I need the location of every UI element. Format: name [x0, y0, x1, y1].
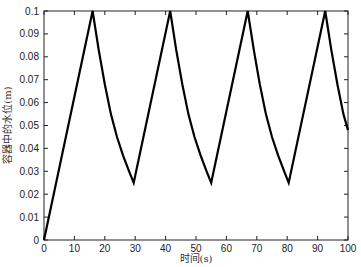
x-axis-label: 时间(s) [180, 252, 213, 264]
y-tick-label: 0 [33, 235, 39, 246]
y-tick-label: 0.04 [20, 143, 40, 154]
series-line [44, 11, 348, 240]
x-tick-label: 20 [99, 243, 111, 254]
y-tick-label: 0.07 [20, 74, 40, 85]
x-tick-label: 70 [251, 243, 263, 254]
plot-frame [44, 11, 348, 240]
x-tick-label: 90 [312, 243, 324, 254]
line-chart: 010203040506070809010000.010.020.030.040… [0, 0, 361, 267]
y-tick-label: 0.08 [20, 51, 40, 62]
y-tick-label: 0.01 [20, 212, 40, 223]
x-tick-label: 30 [130, 243, 142, 254]
y-tick-label: 0.06 [20, 97, 40, 108]
x-tick-label: 10 [69, 243, 81, 254]
plot-axes: 010203040506070809010000.010.020.030.040… [20, 6, 357, 255]
x-tick-label: 80 [282, 243, 294, 254]
y-tick-label: 0.03 [20, 166, 40, 177]
y-tick-label: 0.1 [25, 6, 39, 17]
x-tick-label: 100 [340, 243, 357, 254]
x-tick-label: 40 [160, 243, 172, 254]
y-tick-label: 0.09 [20, 28, 40, 39]
y-axis-label: 容器中的水位(m) [1, 86, 13, 163]
x-tick-label: 60 [221, 243, 233, 254]
data-series [44, 11, 348, 240]
x-tick-label: 0 [41, 243, 47, 254]
y-tick-label: 0.05 [20, 120, 40, 131]
y-tick-label: 0.02 [20, 189, 40, 200]
